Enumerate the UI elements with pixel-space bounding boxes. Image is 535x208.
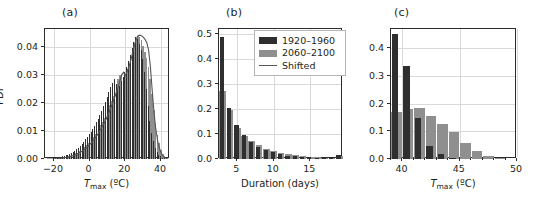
bar-2060-2100 bbox=[449, 132, 460, 159]
xaxis-title: Tmax (ºC) bbox=[44, 178, 169, 191]
legend-swatch-dark bbox=[259, 37, 277, 44]
ytick-mark bbox=[215, 158, 218, 159]
bar-1920-1960 bbox=[285, 156, 289, 160]
ytick-mark bbox=[41, 102, 44, 103]
legend-box: 1920–19602060–2100Shifted bbox=[254, 30, 346, 76]
ytick-label: 0.3 bbox=[348, 70, 384, 81]
xtick-label: 0 bbox=[86, 163, 92, 174]
xtick-minor-mark bbox=[401, 158, 402, 160]
ytick-mark bbox=[41, 46, 44, 47]
plot-axes-c bbox=[390, 28, 516, 158]
xtick-mark bbox=[53, 158, 54, 161]
yaxis-title: PDF bbox=[0, 86, 5, 105]
ytick-label: 0.1 bbox=[348, 125, 384, 136]
ytick-mark bbox=[387, 103, 390, 104]
ytick-mark bbox=[387, 130, 390, 131]
bar-1920-1960 bbox=[322, 158, 326, 159]
bar-2060-2100 bbox=[495, 158, 506, 159]
gridline-vertical bbox=[517, 29, 518, 157]
legend-item: Shifted bbox=[259, 60, 340, 72]
legend-label: 2060–2100 bbox=[282, 48, 335, 58]
ytick-mark bbox=[387, 75, 390, 76]
ytick-label: 0.03 bbox=[2, 69, 38, 80]
bar-1920-1960 bbox=[392, 34, 399, 159]
bar-1920-1960 bbox=[249, 142, 253, 160]
ytick-label: 0.2 bbox=[176, 103, 212, 114]
bar-1920-1960 bbox=[256, 147, 260, 159]
ytick-mark bbox=[215, 33, 218, 34]
bar-1920-1960 bbox=[234, 125, 238, 160]
xtick-mark bbox=[236, 158, 237, 161]
legend-swatch-line bbox=[259, 65, 277, 66]
shifted-outline-curve bbox=[45, 29, 170, 159]
xtick-minor-mark bbox=[390, 158, 391, 160]
xtick-label: 40 bbox=[154, 163, 166, 174]
ytick-label: 0.02 bbox=[2, 97, 38, 108]
ytick-mark bbox=[387, 47, 390, 48]
bar-2060-2100 bbox=[472, 151, 483, 159]
legend-swatch-gray bbox=[259, 50, 277, 57]
ytick-mark bbox=[215, 58, 218, 59]
ytick-label: 0.00 bbox=[2, 153, 38, 164]
bar-1920-1960 bbox=[329, 158, 333, 159]
legend-item: 2060–2100 bbox=[259, 47, 340, 59]
xtick-minor-mark bbox=[516, 158, 517, 160]
ytick-mark bbox=[215, 83, 218, 84]
figure-root: (a)0.000.010.020.030.04−2002040Tmax (ºC)… bbox=[0, 0, 535, 208]
bar-2060-2100 bbox=[483, 156, 494, 159]
xtick-label: −20 bbox=[43, 163, 63, 174]
bar-1920-1960 bbox=[403, 66, 410, 159]
plot-area bbox=[45, 29, 170, 159]
legend-item: 1920–1960 bbox=[259, 35, 340, 47]
xtick-minor-mark bbox=[413, 158, 414, 160]
ytick-mark bbox=[215, 108, 218, 109]
xtick-label: 20 bbox=[118, 163, 130, 174]
plot-axes-a bbox=[44, 28, 169, 158]
xtick-mark bbox=[160, 158, 161, 161]
bar-1920-1960 bbox=[242, 135, 246, 160]
xaxis-title: Duration (days) bbox=[218, 178, 342, 189]
bar-1920-1960 bbox=[300, 157, 304, 159]
bar-1920-1960 bbox=[264, 150, 268, 159]
panel-label-a: (a) bbox=[62, 6, 78, 19]
ytick-label: 0.0 bbox=[176, 153, 212, 164]
ytick-mark bbox=[41, 130, 44, 131]
ytick-label: 0.2 bbox=[348, 97, 384, 108]
xtick-minor-mark bbox=[424, 158, 425, 160]
plot-area bbox=[391, 29, 517, 159]
legend-label: Shifted bbox=[282, 61, 315, 71]
panel-label-b: (b) bbox=[226, 6, 242, 19]
bar-1920-1960 bbox=[315, 158, 319, 159]
xtick-mark bbox=[273, 158, 274, 161]
panel-label-c: (c) bbox=[394, 6, 409, 19]
bar-1920-1960 bbox=[278, 154, 282, 159]
xtick-label: 15 bbox=[303, 163, 315, 174]
bar-1920-1960 bbox=[336, 155, 340, 159]
bar-1920-1960 bbox=[293, 156, 297, 159]
xtick-label: 45 bbox=[453, 163, 465, 174]
xtick-mark bbox=[124, 158, 125, 161]
ytick-label: 0.04 bbox=[2, 41, 38, 52]
bar-1920-1960 bbox=[227, 108, 231, 159]
ytick-label: 0.4 bbox=[176, 53, 212, 64]
bar-1920-1960 bbox=[449, 158, 456, 159]
xtick-minor-mark bbox=[459, 158, 460, 160]
ytick-label: 0.4 bbox=[348, 42, 384, 53]
xtick-minor-mark bbox=[505, 158, 506, 160]
bar-1920-1960 bbox=[438, 154, 445, 159]
ytick-mark bbox=[215, 133, 218, 134]
xtick-label: 40 bbox=[395, 163, 407, 174]
ytick-label: 0.1 bbox=[176, 128, 212, 139]
ytick-mark bbox=[41, 74, 44, 75]
xtick-mark bbox=[309, 158, 310, 161]
xtick-minor-mark bbox=[470, 158, 471, 160]
xtick-minor-mark bbox=[436, 158, 437, 160]
xaxis-title: Tmax (ºC) bbox=[390, 178, 516, 191]
xtick-minor-mark bbox=[482, 158, 483, 160]
legend-label: 1920–1960 bbox=[282, 36, 335, 46]
xtick-mark bbox=[89, 158, 90, 161]
bar-1920-1960 bbox=[415, 118, 422, 159]
ytick-label: 0.3 bbox=[176, 78, 212, 89]
bar-1920-1960 bbox=[426, 146, 433, 159]
ytick-label: 0.0 bbox=[348, 153, 384, 164]
